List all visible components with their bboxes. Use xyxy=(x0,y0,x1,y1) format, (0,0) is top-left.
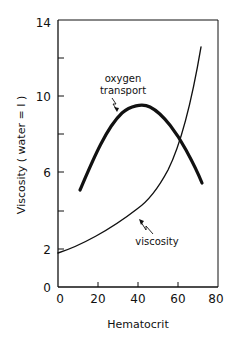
x-tick-0: 0 xyxy=(56,292,64,306)
y-axis-ticks xyxy=(58,58,64,249)
x-axis-ticks xyxy=(98,282,178,287)
arrowhead-icon xyxy=(139,219,144,225)
y-tick-10: 10 xyxy=(36,90,51,104)
annotation-viscosity: viscosity xyxy=(135,219,178,247)
y-axis-tick-labels: 14 10 6 2 0 xyxy=(36,16,51,295)
annotation-viscosity-label: viscosity xyxy=(135,236,178,247)
chart: 14 10 6 2 0 0 20 40 60 80 Hematocrit Vis… xyxy=(0,0,239,342)
oxygen-transport-curve xyxy=(80,105,202,190)
x-tick-80: 80 xyxy=(208,292,223,306)
y-tick-6: 6 xyxy=(43,166,51,180)
y-tick-14: 14 xyxy=(36,16,51,30)
y-axis-title: Viscosity ( water = I ) xyxy=(15,96,28,214)
y-tick-0: 0 xyxy=(43,281,51,295)
arrowhead-icon xyxy=(114,107,119,112)
x-tick-60: 60 xyxy=(170,292,185,306)
annotation-oxygen-line2: transport xyxy=(100,85,146,96)
zigzag-arrow-icon xyxy=(141,222,153,234)
x-tick-20: 20 xyxy=(90,292,105,306)
y-tick-2: 2 xyxy=(43,243,51,257)
x-tick-40: 40 xyxy=(130,292,145,306)
x-axis-tick-labels: 0 20 40 60 80 xyxy=(56,292,223,306)
x-axis-title: Hematocrit xyxy=(107,318,169,331)
annotation-oxygen-line1: oxygen xyxy=(105,73,141,84)
